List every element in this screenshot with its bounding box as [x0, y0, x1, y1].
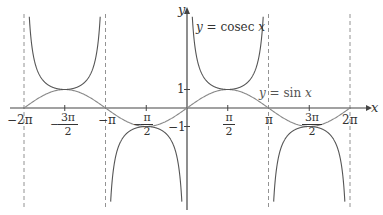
- tick-label-y-neg-1: −1: [168, 121, 186, 133]
- cosec-curve-label: y = cosec x: [196, 21, 265, 33]
- tick-label-y-1: 1: [177, 83, 185, 95]
- cosec-sin-graph: y x y = cosec x y = sin x −2π −π π 2π − …: [0, 0, 383, 215]
- tick-label-neg-2pi: −2π: [7, 114, 33, 126]
- tick-label-pi-over-2: π 2: [223, 112, 235, 137]
- tick-label-neg-pi: −π: [98, 114, 116, 126]
- y-axis-label: y: [178, 3, 185, 16]
- tick-label-neg-pi-over-2: − π 2: [141, 112, 153, 137]
- tick-label-3pi-over-2: 3π 2: [302, 112, 322, 137]
- plot-area: [0, 0, 383, 215]
- tick-label-neg-3pi-over-2: − 3π 2: [58, 112, 78, 137]
- tick-label-2pi: 2π: [342, 114, 358, 126]
- x-axis-label: x: [371, 101, 378, 114]
- sin-curve-label: y = sin x: [259, 87, 312, 99]
- tick-label-pi: π: [265, 114, 273, 126]
- cosec-curve-branch: [29, 17, 100, 90]
